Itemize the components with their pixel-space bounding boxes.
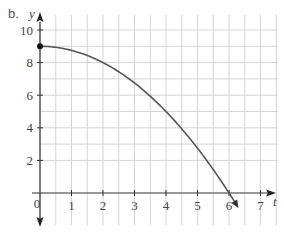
x-axis-label: t (273, 194, 277, 209)
curve-arrow-icon (231, 199, 238, 208)
curve-line (40, 46, 235, 203)
curve (37, 43, 238, 208)
y-tick-label: 6 (27, 88, 34, 103)
x-tick-label: 1 (68, 198, 75, 213)
x-tick-label: 2 (100, 198, 107, 213)
chart: 12345672468100ty (0, 0, 284, 232)
y-axis-label: y (27, 6, 35, 21)
x-tick-label: 5 (194, 198, 201, 213)
ticks: 12345672468100ty (20, 6, 277, 213)
x-tick-label: 3 (131, 198, 138, 213)
axes (32, 12, 276, 227)
y-tick-label: 10 (20, 23, 33, 38)
y-tick-label: 8 (27, 55, 34, 70)
origin-label: 0 (34, 196, 41, 211)
y-tick-label: 2 (27, 153, 34, 168)
x-tick-label: 7 (257, 198, 264, 213)
x-tick-label: 6 (226, 198, 233, 213)
start-point-marker (37, 43, 43, 49)
y-tick-label: 4 (27, 120, 34, 135)
x-tick-label: 4 (163, 198, 170, 213)
